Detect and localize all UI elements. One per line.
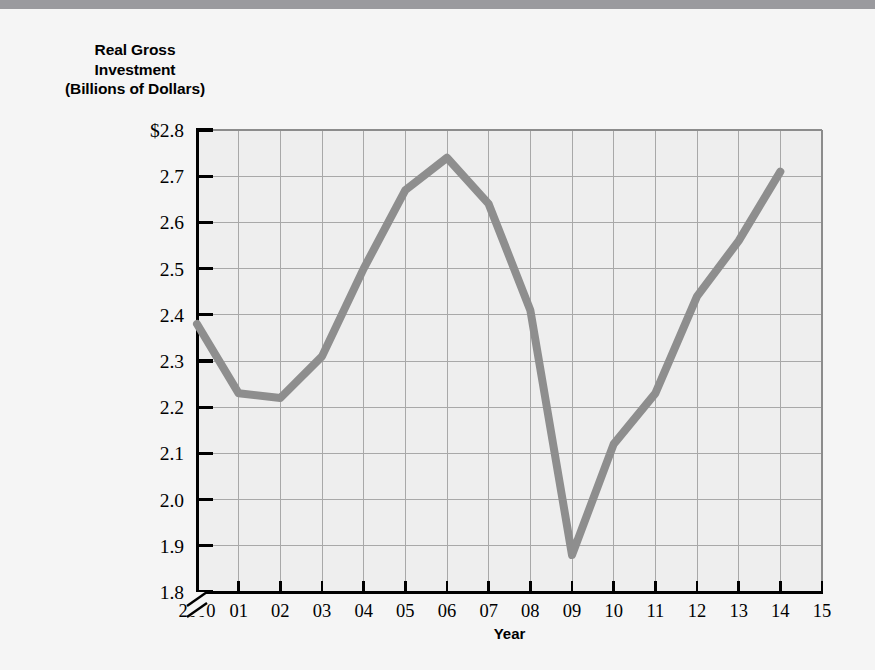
line-chart-plot: $2.82.72.62.52.42.32.22.12.01.91.8 20000… [0,0,875,670]
y-tick-label: 2.4 [160,305,185,326]
y-tick-label: 2.6 [160,212,185,233]
y-tick-label: 2.2 [160,397,184,418]
x-tick-label: 12 [688,601,707,621]
y-tick-label: 2.3 [160,351,184,372]
x-tick-label: 08 [521,601,540,621]
x-tick-label: 15 [813,601,832,621]
x-tick-label: 10 [604,601,623,621]
y-tick-label: 2.1 [160,443,184,464]
chart-figure: Real Gross Investment (Billions of Dolla… [0,0,875,670]
y-tick-label: 2.5 [160,259,184,280]
y-tick-label: 2.7 [160,166,185,187]
x-tick-label: 09 [563,601,582,621]
x-axis-tick-labels: 2000010203040506070809101112131415 [179,601,832,621]
y-axis-break-symbol [187,592,207,617]
x-tick-label: 04 [354,601,373,621]
x-tick-label: 05 [396,601,415,621]
x-tick-label: 13 [729,601,748,621]
x-tick-label: 07 [479,601,498,621]
y-tick-label: 1.9 [160,536,184,557]
x-tick-label: 03 [313,601,332,621]
y-tick-label: $2.8 [150,120,184,141]
x-tick-label: 02 [271,601,290,621]
y-tick-label: 2.0 [160,490,184,511]
y-tick-label: 1.8 [160,582,184,603]
x-tick-label: 14 [771,601,790,621]
x-tick-label: 11 [646,601,664,621]
x-tick-label: 01 [229,601,248,621]
x-tick-label: 06 [438,601,457,621]
y-axis-tick-labels: $2.82.72.62.52.42.32.22.12.01.91.8 [150,120,184,603]
x-axis-title: Year [197,625,822,642]
